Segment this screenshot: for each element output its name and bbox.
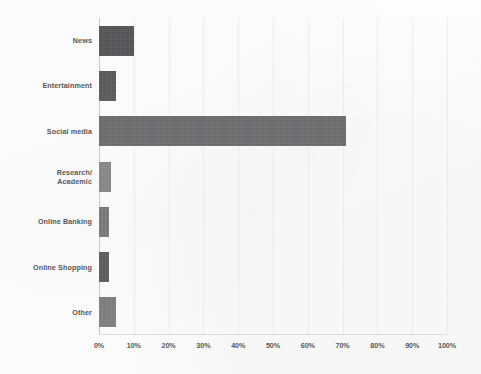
category-label-news: News <box>0 36 92 45</box>
x-tick-label-40%: 40% <box>231 341 245 350</box>
x-tick-label-20%: 20% <box>162 341 176 350</box>
bar-research-academic <box>99 162 111 192</box>
category-label-other: Other <box>0 308 92 317</box>
bar-row <box>99 207 447 237</box>
x-tick-label-80%: 80% <box>370 341 384 350</box>
x-tick-label-10%: 10% <box>127 341 141 350</box>
x-tick-label-100%: 100% <box>438 341 456 350</box>
gridline-100% <box>447 18 448 335</box>
x-tick-label-90%: 90% <box>405 341 419 350</box>
x-tick-label-60%: 60% <box>301 341 315 350</box>
bar-online-shopping <box>99 252 109 282</box>
bar-news <box>99 26 134 56</box>
bar-online-banking <box>99 207 109 237</box>
bar-row <box>99 116 447 146</box>
bar-other <box>99 297 116 327</box>
bar-entertainment <box>99 71 116 101</box>
bar-row <box>99 26 447 56</box>
category-label-online-banking: Online Banking <box>0 217 92 226</box>
bar-social-media <box>99 116 346 146</box>
x-tick-label-30%: 30% <box>196 341 210 350</box>
bar-row <box>99 71 447 101</box>
x-tick-label-0%: 0% <box>94 341 104 350</box>
x-tick-label-50%: 50% <box>266 341 280 350</box>
category-label-entertainment: Entertainment <box>0 81 92 90</box>
category-label-online-shopping: Online Shopping <box>0 263 92 272</box>
bar-row <box>99 252 447 282</box>
x-tick-label-70%: 70% <box>336 341 350 350</box>
x-axis-tick-labels: 0%10%20%30%40%50%60%70%80%90%100% <box>99 341 447 355</box>
bar-row <box>99 297 447 327</box>
bar-row <box>99 162 447 192</box>
bar-chart-figure: NewsEntertainmentSocial mediaResearch/ A… <box>0 0 481 374</box>
category-label-social-media: Social media <box>0 127 92 136</box>
plot-area <box>99 18 447 335</box>
category-label-research-academic: Research/ Academic <box>0 168 92 186</box>
